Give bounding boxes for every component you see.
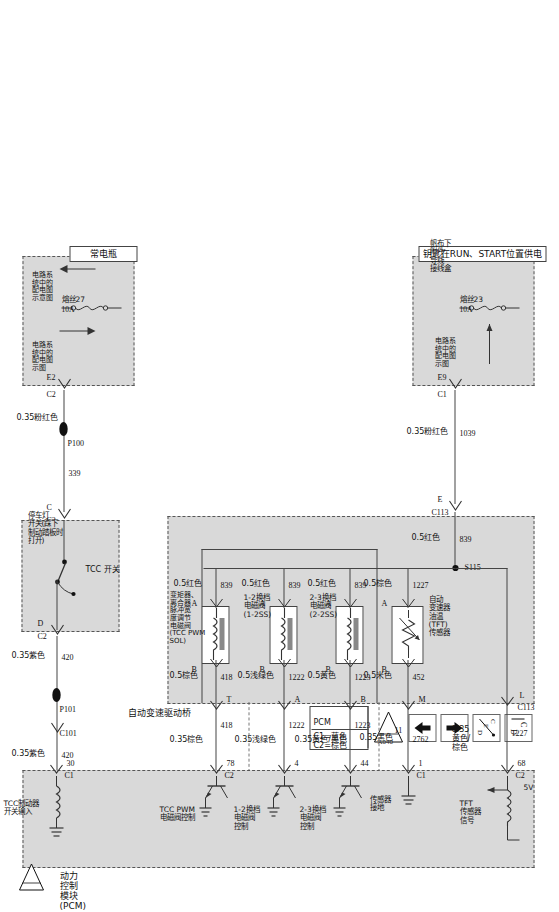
pcm-pin-78: 78 (226, 760, 234, 769)
wire-420-spec-b: 0.35紫色 (11, 750, 45, 759)
pcm-pin-68-5v: 5V (523, 784, 533, 792)
ss12-in-number: 839 (288, 582, 300, 591)
pcm-pin-68-function: TFT传感器信号 (459, 800, 480, 825)
lane-divider-1 (378, 702, 379, 772)
wire-339 (63, 390, 64, 512)
wire-420-number-a: 420 (61, 654, 73, 663)
junction-box-note: 帆布下附件导线接线盒 (429, 240, 450, 273)
pcm-pin-4-arrow (277, 764, 291, 776)
tft-out-number: 452 (412, 674, 424, 683)
transaxle-title: 自动变速驱动桥 (127, 708, 190, 718)
ss12-label: 1-2换档电磁阀(1-2SS) (243, 594, 271, 619)
pcm-page-ref-icon[interactable] (18, 862, 44, 892)
ss23-out-number: 1223 (354, 674, 370, 683)
wire-420-spec-a: 0.35紫色 (11, 652, 45, 661)
ss23-label: 2-3换档电磁阀(2-2SS) (309, 594, 337, 619)
pcm-pin-68-circuit (481, 776, 525, 854)
pcm-pin-78-driver (201, 776, 231, 824)
ss12-coil-symbol (271, 606, 297, 662)
de-c-icon[interactable]: CDE (472, 714, 500, 742)
brake-switch-title: 停车灯开关(踩下制动踏板时打开) (27, 512, 62, 545)
pcm-pin-4-function: 1-2换档电磁阀控制 (233, 806, 259, 831)
connector-e9-cavity: E9 (437, 374, 446, 383)
ss23-in-spec: 0.5红色 (307, 580, 336, 589)
ss23-in-number: 839 (354, 582, 366, 591)
tft-pin-b-arrow (401, 658, 415, 670)
ss23-out-spec: 0.5黄色 (307, 672, 336, 681)
fuse-27-label: 熔丝27 (61, 296, 85, 304)
pcm-pin-4-driver (269, 776, 299, 824)
connector-e2-name: C2 (46, 391, 55, 400)
lane-divider-2 (248, 702, 249, 772)
svg-text:C: C (518, 722, 527, 727)
wire-839-feed-number: 839 (459, 536, 471, 545)
tft-feed-top (506, 568, 507, 702)
run-start-power-box (412, 256, 534, 386)
pcm-pin-68: 68 (517, 760, 525, 769)
run-start-ref-arrow (483, 322, 495, 370)
tft-sensor-symbol (393, 606, 423, 662)
ss12-pin-a-arrow (277, 598, 291, 610)
svg-text:D: D (475, 730, 483, 735)
wire-1227-spec: 0.35黄色/棕色 (451, 726, 470, 752)
tft-feed-bus (455, 568, 507, 569)
tccpwm-in-number: 839 (220, 582, 232, 591)
ss12-out-number: 1222 (288, 674, 304, 683)
tccpwm-coil-symbol (203, 606, 229, 662)
pcm-pin-44-function: 2-3换档电磁阀控制 (299, 806, 325, 831)
svg-text:C: C (488, 719, 496, 724)
pcm-pin-78-arrow (209, 764, 223, 776)
connector-e2-cavity: E2 (46, 374, 55, 383)
fuse-23-label: 熔丝23 (459, 296, 483, 304)
pcm-pin-30-circuit (41, 776, 71, 846)
battery-ref-arrow-right (57, 324, 97, 338)
svg-text:E: E (482, 724, 488, 728)
p101-label: P101 (59, 706, 75, 715)
wire-1227-number: 1227 (511, 730, 527, 739)
pcm-title: 动力控制模块(PCM) (59, 872, 86, 912)
pcm-pin-1-ground (397, 776, 417, 816)
wire-418-to-pcm (215, 708, 216, 770)
pcm-pin-78-function: TCC PWM电磁阀控制 (159, 806, 194, 823)
fuse-27-rating: 10A (61, 306, 74, 314)
ss12-in-spec: 0.5红色 (241, 580, 270, 589)
tccpwm-pin-a-arrow (209, 598, 223, 610)
pcm-pin-4: 4 (294, 760, 298, 769)
pcm-pin-44: 44 (360, 760, 368, 769)
tft-pin-a-arrow (401, 598, 415, 610)
wire-1227-to-pcm (506, 702, 507, 770)
brake-out-wire (56, 580, 57, 630)
battery-ref-arrow-left (57, 262, 97, 276)
p100-label: P100 (67, 440, 83, 449)
battery-ref-note-right: 电路系统中的配电图示图 (31, 342, 52, 373)
pcm-legend-title: PCM (313, 719, 330, 728)
cav-T: T (226, 696, 231, 705)
wire-1222-number: 1222 (288, 722, 304, 731)
tccpwm-in-spec: 0.5红色 (173, 580, 202, 589)
ss12-out-spec: 0.5浅绿色 (237, 672, 274, 681)
tccpwm-label: 变矩器、离合器脉冲宽度调节电磁阀(TCC PWMSOL) (169, 592, 205, 646)
wire-339-spec: 0.35粉红色 (16, 414, 58, 423)
wire-420-number-b: 420 (61, 752, 73, 761)
tcc-switch-symbol (45, 558, 81, 604)
wire-1222-spec: 0.35浅绿色 (234, 736, 276, 745)
pcm-pin-30: 30 (66, 760, 74, 769)
cav-B: B (360, 696, 365, 705)
tccpwm-out-number: 418 (220, 674, 232, 683)
tcc-switch-label: TCC 开关 (85, 566, 119, 575)
tft-in-spec: 0.5棕色 (363, 580, 392, 589)
pcm-pin-44-driver (335, 776, 365, 824)
battery-title: 常电瓶 (69, 246, 137, 262)
page-ref-number: 11 (394, 727, 402, 736)
run-start-ref-note: 电路系统中的配电图示图 (434, 338, 455, 369)
wire-418-spec: 0.35棕色 (169, 736, 203, 745)
pcm-pin-30-function: TCC制动器开关输入 (3, 800, 39, 817)
pcm-pin-1-function: 传感器接地 (369, 796, 390, 813)
cav-M: M (418, 696, 425, 705)
connector-e9-name: C1 (437, 391, 446, 400)
wire-839-feed-spec: 0.5红色 (411, 534, 440, 543)
cav-A: A (294, 696, 300, 705)
wire-1039 (454, 390, 455, 504)
tft-pin-a: A (381, 600, 387, 609)
